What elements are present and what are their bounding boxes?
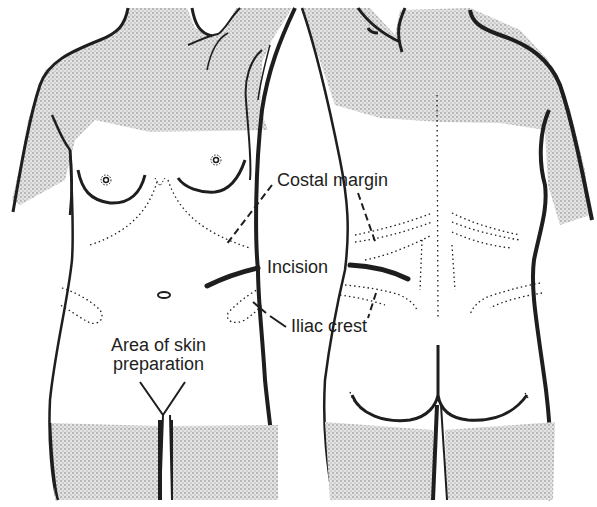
iliac-crest-leader-left: [253, 302, 286, 327]
posterior-incision-line: [350, 265, 408, 279]
posterior-view: [302, 8, 592, 500]
iliac-crest-label: Iliac crest: [291, 316, 367, 336]
posterior-thigh-shaded-area: [325, 422, 555, 500]
anterior-costal-margin-dotted: [90, 180, 250, 248]
anterior-left-breast: [78, 170, 145, 203]
skin-preparation-area-label: Area of skin preparation: [111, 336, 206, 374]
incision-label: Incision: [267, 257, 328, 277]
posterior-spine-dotted: [437, 95, 438, 320]
posterior-buttocks: [352, 345, 527, 421]
skin-preparation-label-line-1: Area of skin: [111, 336, 206, 355]
anterior-thigh-shaded-area: [50, 423, 278, 500]
posterior-ribs-dotted: [355, 213, 520, 290]
anatomy-diagram: [0, 0, 597, 507]
costal-margin-leader-left: [226, 185, 272, 245]
anterior-navel: [158, 292, 170, 298]
costal-margin-label: Costal margin: [277, 170, 388, 190]
iliac-crest-leader-right: [368, 293, 376, 318]
anterior-right-breast: [178, 160, 245, 192]
skin-preparation-label-line-2: preparation: [111, 355, 206, 374]
costal-margin-leader-right: [358, 193, 376, 244]
anterior-left-nipple: [104, 178, 109, 183]
posterior-iliac-dotted: [340, 283, 542, 315]
anterior-incision-line: [207, 268, 258, 286]
anterior-right-nipple: [214, 158, 219, 163]
anterior-view: [12, 8, 295, 500]
